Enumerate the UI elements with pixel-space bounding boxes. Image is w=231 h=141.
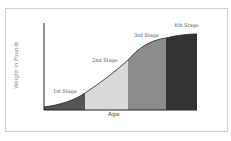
stage-4-area — [166, 34, 197, 110]
x-axis-label: Age — [108, 110, 120, 117]
stage-3-label: 3rd Stage — [134, 32, 159, 38]
stage-4-label: 4th Stage — [174, 22, 199, 28]
stage-3-area — [128, 38, 166, 110]
stage-1-area — [44, 93, 85, 110]
y-axis-label: Weight in Pounds — [13, 41, 19, 89]
stage-2-area — [85, 60, 128, 110]
stage-1-label: 1st Stage — [53, 88, 77, 94]
stage-2-label: 2nd Stage — [92, 57, 118, 63]
